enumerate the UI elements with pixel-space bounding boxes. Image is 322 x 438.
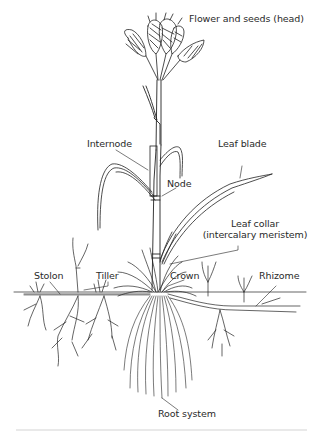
bottom-divider [16, 429, 307, 431]
label-flower-head: Flower and seeds (head) [189, 13, 304, 24]
label-internode: Internode [87, 138, 132, 149]
label-leaf-collar-line2: (intercalary meristem) [190, 229, 320, 240]
label-root-system: Root system [158, 408, 216, 419]
label-node: Node [167, 178, 191, 189]
leaves [98, 147, 272, 264]
label-tiller: Tiller [96, 270, 119, 281]
stolon [24, 238, 150, 366]
label-rhizome: Rhizome [259, 270, 299, 281]
label-leaf-blade: Leaf blade [218, 138, 267, 149]
root-system [124, 296, 192, 398]
label-leaf-collar: Leaf collar (intercalary meristem) [190, 218, 320, 240]
label-leaf-collar-line1: Leaf collar [190, 218, 320, 229]
label-crown: Crown [170, 270, 199, 281]
label-stolon: Stolon [34, 270, 63, 281]
leader-lines [50, 150, 276, 410]
